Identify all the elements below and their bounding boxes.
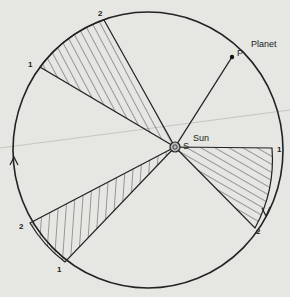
sector-b-start-label: 1 bbox=[277, 145, 282, 154]
sector-right bbox=[175, 147, 272, 228]
sector-c-start-label: 2 bbox=[19, 222, 24, 231]
orbit-diagram: Planet P Sun S 1 2 1 2 2 1 bbox=[0, 0, 290, 297]
sector-a-end-label: 2 bbox=[98, 9, 103, 18]
planet-label: Planet bbox=[251, 39, 277, 49]
sun-point-label: S bbox=[183, 141, 189, 151]
sector-a-start-label: 1 bbox=[28, 60, 33, 69]
sector-lower-left bbox=[30, 147, 175, 262]
planet-dot bbox=[230, 55, 234, 59]
sector-upper-left bbox=[40, 20, 175, 147]
sector-c-end-label: 1 bbox=[57, 265, 62, 274]
planet-point-label: P bbox=[237, 48, 243, 58]
sun-label: Sun bbox=[193, 133, 209, 143]
sector-b-end-label: 2 bbox=[256, 227, 261, 236]
sun-icon bbox=[170, 142, 180, 152]
